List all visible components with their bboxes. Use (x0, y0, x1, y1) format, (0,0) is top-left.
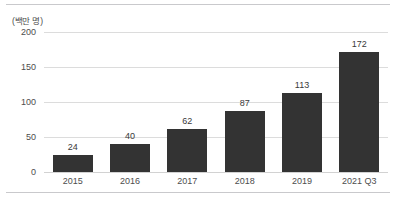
y-axis-tick-label: 50 (0, 132, 36, 142)
x-axis-label: 2015 (63, 176, 83, 186)
y-axis-tick-label: 200 (0, 27, 36, 37)
bar[interactable] (167, 129, 207, 172)
bar-value-label: 62 (182, 116, 192, 126)
bar-slot: 87 (216, 32, 273, 172)
bars-group: 24406287113172 (44, 32, 388, 172)
bar-slot: 24 (44, 32, 101, 172)
bar-slot: 172 (331, 32, 388, 172)
bar-value-label: 172 (352, 39, 367, 49)
bar-slot: 62 (159, 32, 216, 172)
x-axis-label: 2019 (292, 176, 312, 186)
x-axis-label: 2018 (235, 176, 255, 186)
x-axis-label: 2016 (120, 176, 140, 186)
plot-area: 050100150200 24406287113172 (44, 32, 388, 172)
x-axis-label-group: 201520162017201820192021 Q3 (44, 176, 388, 190)
bar-value-label: 87 (240, 98, 250, 108)
bar[interactable] (339, 52, 379, 172)
bar[interactable] (282, 93, 322, 172)
y-axis-tick-label: 0 (0, 167, 36, 177)
x-axis-label: 2017 (177, 176, 197, 186)
top-divider (6, 4, 390, 5)
bar[interactable] (53, 155, 93, 172)
bar-slot: 113 (273, 32, 330, 172)
gridline-0 (44, 172, 388, 173)
bar[interactable] (110, 144, 150, 172)
bar-value-label: 113 (295, 80, 309, 90)
y-axis-tick-label: 100 (0, 97, 36, 107)
y-axis-tick-label: 150 (0, 62, 36, 72)
x-axis-label: 2021 Q3 (342, 176, 377, 186)
bar-value-label: 40 (125, 131, 135, 141)
y-axis-unit-label: (백만 명) (12, 14, 43, 26)
bar-value-label: 24 (68, 142, 78, 152)
bottom-divider (6, 192, 390, 193)
bar-chart-figure: (백만 명) 050100150200 24406287113172 20152… (0, 0, 394, 207)
bar-slot: 40 (101, 32, 158, 172)
bar[interactable] (225, 111, 265, 172)
